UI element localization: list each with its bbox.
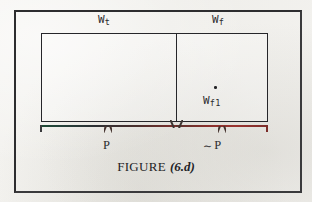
world-partition-rectangle bbox=[41, 33, 268, 122]
brace-label-not-p: ∼P bbox=[203, 138, 221, 153]
brace-p bbox=[40, 125, 176, 138]
negation-tilde-icon: ∼ bbox=[203, 140, 212, 153]
brace-not-p-center-tick bbox=[218, 126, 226, 133]
region-label-wt-subscript: t bbox=[105, 17, 111, 27]
figure-caption: FIGURE(6.d) bbox=[0, 159, 312, 175]
brace-label-p: P bbox=[103, 138, 110, 153]
region-label-wf-subscript: f bbox=[219, 17, 225, 27]
region-label-wf: Wf bbox=[212, 13, 224, 27]
region-label-wt: Wt bbox=[98, 13, 110, 27]
point-label-wf1-subscript: f1 bbox=[210, 98, 221, 108]
brace-label-not-p-text: P bbox=[214, 138, 221, 152]
region-label-wt-base: W bbox=[98, 13, 105, 26]
region-label-wf-base: W bbox=[212, 13, 219, 26]
point-label-wf1-base: W bbox=[203, 94, 210, 107]
brace-p-end-left bbox=[40, 125, 42, 132]
figure-caption-word: FIGURE bbox=[117, 159, 166, 174]
region-divider-line bbox=[176, 33, 177, 122]
brace-junction-cusp bbox=[170, 120, 183, 128]
brace-not-p bbox=[176, 125, 268, 138]
brace-p-center-tick bbox=[104, 126, 112, 133]
figure-page: Wt Wf Wf1 P ∼P FIGURE(6.d) bbox=[0, 0, 312, 202]
figure-caption-number: (6.d) bbox=[170, 159, 195, 174]
dot-point-marker bbox=[214, 86, 217, 89]
point-label-wf1: Wf1 bbox=[203, 94, 221, 108]
brace-not-p-end-right bbox=[266, 125, 268, 132]
